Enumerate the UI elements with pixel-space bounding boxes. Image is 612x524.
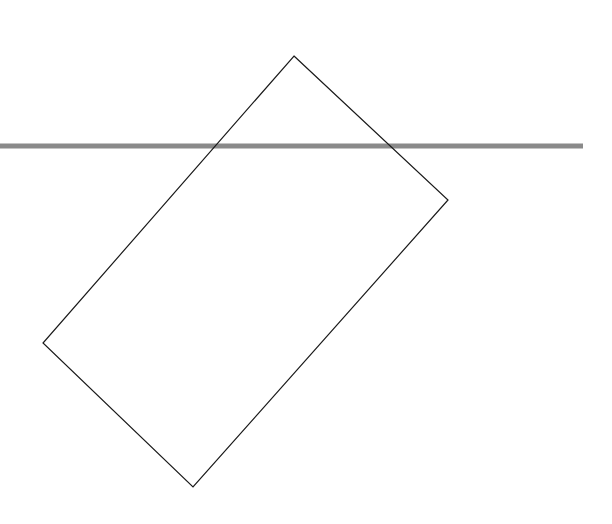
diagram-svg [0, 0, 612, 524]
rotated-rectangle-outline [43, 56, 448, 487]
diagram-canvas [0, 0, 612, 524]
